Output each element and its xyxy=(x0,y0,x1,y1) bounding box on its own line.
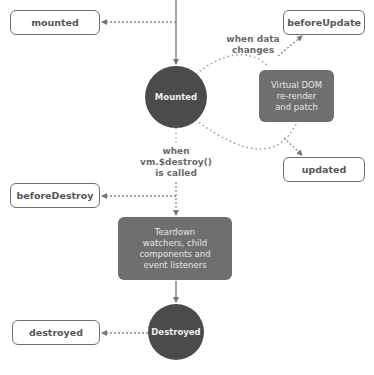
hook-mounted: mounted xyxy=(10,10,100,35)
state-destroyed-label: Destroyed xyxy=(151,327,200,337)
hook-destroyed: destroyed xyxy=(12,320,100,345)
update-cycle-loop xyxy=(196,55,268,74)
state-destroyed: Destroyed xyxy=(148,304,204,360)
process-virtual-dom: Virtual DOM re-render and patch xyxy=(259,70,334,122)
hook-before-destroy: beforeDestroy xyxy=(10,183,100,208)
condition-destroy-called: when vm.$destroy() is called xyxy=(131,146,221,179)
hook-updated: updated xyxy=(283,157,365,182)
hook-updated-label: updated xyxy=(302,164,347,175)
hook-arrow-updated xyxy=(284,138,302,155)
state-mounted-label: Mounted xyxy=(155,92,197,102)
hook-mounted-label: mounted xyxy=(31,17,79,28)
update-cycle-return xyxy=(196,120,296,149)
hook-destroyed-label: destroyed xyxy=(29,327,83,338)
state-mounted: Mounted xyxy=(145,66,207,128)
condition-data-changes: when data changes xyxy=(213,34,293,56)
process-teardown: Teardown watchers, child components and … xyxy=(118,217,232,280)
hook-before-destroy-label: beforeDestroy xyxy=(17,190,94,201)
hook-before-update: beforeUpdate xyxy=(283,10,365,35)
hook-before-update-label: beforeUpdate xyxy=(287,17,361,28)
